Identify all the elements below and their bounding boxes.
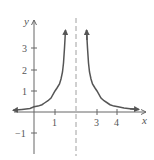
y-tick-label-1: 1 bbox=[22, 86, 27, 97]
x-tick-label-4: 4 bbox=[114, 117, 119, 128]
y-tick-label-2: 2 bbox=[22, 65, 27, 76]
x-tick-label-1: 1 bbox=[52, 117, 57, 128]
chart-canvas: x y 1 3 4 3 2 1 −1 bbox=[0, 0, 154, 160]
curve-left-tail-arrow bbox=[13, 110, 22, 111]
x-tick-label-3: 3 bbox=[94, 117, 99, 128]
y-axis-label: y bbox=[23, 15, 29, 27]
x-axis-label: x bbox=[141, 114, 147, 126]
y-tick-label-3: 3 bbox=[22, 43, 27, 54]
curve-right-branch bbox=[87, 30, 137, 109]
curve-right-tail-arrow bbox=[130, 109, 139, 110]
curve-left-branch bbox=[22, 30, 66, 110]
y-tick-label-neg1: −1 bbox=[15, 128, 26, 139]
